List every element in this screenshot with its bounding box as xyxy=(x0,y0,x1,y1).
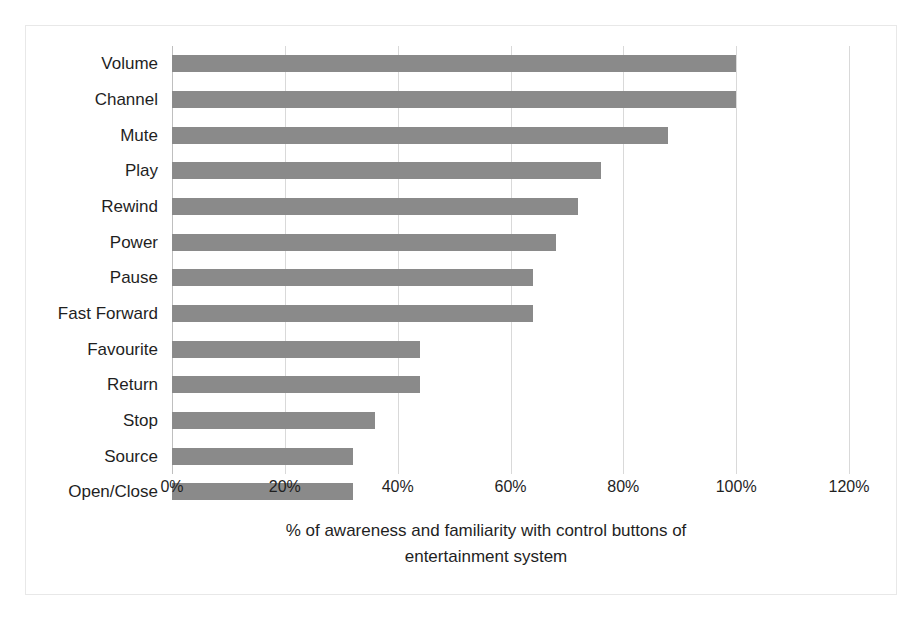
x-tick-20%: 20% xyxy=(269,478,301,496)
bar-channel[interactable] xyxy=(172,91,736,108)
category-label-source: Source xyxy=(104,448,158,465)
bar-row xyxy=(172,331,849,367)
category-label-stop: Stop xyxy=(123,412,158,429)
gridline-120% xyxy=(849,46,850,474)
category-label-return: Return xyxy=(107,376,158,393)
category-label-channel: Channel xyxy=(95,91,158,108)
bar-row xyxy=(172,82,849,118)
category-axis-row: Stop xyxy=(26,403,166,439)
category-label-favourite: Favourite xyxy=(87,341,158,358)
bar-mute[interactable] xyxy=(172,127,668,144)
bar-row xyxy=(172,260,849,296)
category-label-mute: Mute xyxy=(120,127,158,144)
category-axis-row: Rewind xyxy=(26,189,166,225)
category-label-play: Play xyxy=(125,162,158,179)
category-axis-row: Return xyxy=(26,367,166,403)
bar-row xyxy=(172,224,849,260)
bar-row xyxy=(172,153,849,189)
bar-rewind[interactable] xyxy=(172,198,578,215)
x-tick-60%: 60% xyxy=(494,478,526,496)
bar-volume[interactable] xyxy=(172,55,736,72)
bar-favourite[interactable] xyxy=(172,341,420,358)
x-axis-title-line-2: entertainment system xyxy=(136,544,836,570)
bar-row xyxy=(172,403,849,439)
bar-series xyxy=(172,46,849,474)
category-axis-row: Fast Forward xyxy=(26,296,166,332)
bar-play[interactable] xyxy=(172,162,601,179)
x-tick-0%: 0% xyxy=(160,478,183,496)
x-tick-120%: 120% xyxy=(829,478,870,496)
bar-row xyxy=(172,189,849,225)
category-label-pause: Pause xyxy=(110,269,158,286)
bar-pause[interactable] xyxy=(172,269,533,286)
category-axis-row: Source xyxy=(26,438,166,474)
category-label-rewind: Rewind xyxy=(101,198,158,215)
x-tick-80%: 80% xyxy=(607,478,639,496)
category-axis-row: Channel xyxy=(26,82,166,118)
x-tick-40%: 40% xyxy=(382,478,414,496)
category-axis-labels: VolumeChannelMutePlayRewindPowerPauseFas… xyxy=(26,46,166,474)
bar-source[interactable] xyxy=(172,448,353,465)
bar-row xyxy=(172,438,849,474)
bar-row xyxy=(172,367,849,403)
category-axis-row: Mute xyxy=(26,117,166,153)
category-axis-row: Favourite xyxy=(26,331,166,367)
bar-power[interactable] xyxy=(172,234,556,251)
x-tick-100%: 100% xyxy=(716,478,757,496)
category-label-fast-forward: Fast Forward xyxy=(58,305,158,322)
bar-row xyxy=(172,46,849,82)
bar-return[interactable] xyxy=(172,376,420,393)
bar-row xyxy=(172,296,849,332)
value-axis-tick-labels: 0%20%40%60%80%100%120% xyxy=(172,478,849,508)
bar-stop[interactable] xyxy=(172,412,375,429)
category-label-volume: Volume xyxy=(101,55,158,72)
category-axis-row: Volume xyxy=(26,46,166,82)
x-axis-title-line-1: % of awareness and familiarity with cont… xyxy=(136,518,836,544)
category-label-power: Power xyxy=(110,234,158,251)
bar-row xyxy=(172,117,849,153)
chart-plot-wrapper: VolumeChannelMutePlayRewindPowerPauseFas… xyxy=(26,26,898,596)
category-axis-row: Pause xyxy=(26,260,166,296)
category-axis-row: Play xyxy=(26,153,166,189)
category-axis-row: Power xyxy=(26,224,166,260)
chart-frame: VolumeChannelMutePlayRewindPowerPauseFas… xyxy=(25,25,897,595)
category-axis-row: Open/Close xyxy=(26,474,166,510)
category-label-open-close: Open/Close xyxy=(68,483,158,500)
x-axis-title: % of awareness and familiarity with cont… xyxy=(136,518,836,571)
bar-fast-forward[interactable] xyxy=(172,305,533,322)
